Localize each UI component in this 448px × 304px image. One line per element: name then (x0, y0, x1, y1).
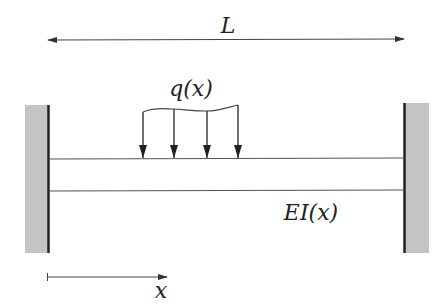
right-wall-hatch (405, 103, 429, 253)
beam-top-edge (49, 158, 404, 159)
beam-diagram: L q(x) EI(x) x (0, 0, 448, 304)
load-label: q(x) (169, 76, 213, 101)
length-label: L (220, 13, 236, 38)
beam (49, 158, 404, 191)
distributed-load: q(x) (143, 76, 238, 158)
x-axis-label: x (155, 278, 168, 303)
right-fixed-support (405, 103, 430, 253)
length-dimension: L (48, 13, 404, 40)
beam-bottom-edge (49, 190, 404, 191)
length-arrow (48, 39, 404, 40)
stiffness-label: EI(x) (283, 200, 338, 225)
load-curve (143, 105, 238, 112)
left-wall-hatch (25, 105, 48, 253)
x-axis: x (48, 273, 168, 303)
left-fixed-support (25, 105, 49, 253)
